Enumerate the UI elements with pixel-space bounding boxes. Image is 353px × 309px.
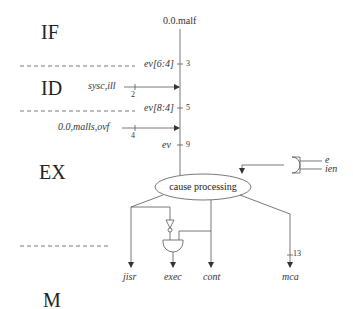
output-exec: exec xyxy=(164,272,182,282)
tick-5: 5 xyxy=(186,104,190,112)
output-cont: cont xyxy=(203,272,220,282)
stage-label-ex: EX xyxy=(39,162,66,182)
output-jisr: jisr xyxy=(123,272,136,282)
gate-input-ien: ien xyxy=(325,164,337,174)
tick-4: 4 xyxy=(131,132,135,140)
tick-13: 13 xyxy=(293,250,301,258)
tick-3: 3 xyxy=(186,60,190,68)
and-gate-exec xyxy=(163,240,183,252)
ev84-label: ev[8:4] xyxy=(144,103,174,113)
ev64-label: ev[6:4] xyxy=(144,59,174,69)
cause-processing-label: cause processing xyxy=(155,181,251,192)
sysc-ill-label: sysc,ill xyxy=(88,81,116,91)
tick-2: 2 xyxy=(131,91,135,99)
and-gate-e-ien xyxy=(292,157,300,173)
malls-ovf-label: 0.0,malls,ovf xyxy=(58,122,109,132)
ev-label: ev xyxy=(162,140,171,150)
stage-label-if: IF xyxy=(41,22,59,42)
inverter xyxy=(166,220,174,228)
tick-9: 9 xyxy=(186,141,190,149)
stage-label-m: M xyxy=(43,290,61,309)
diagram-canvas xyxy=(0,0,353,309)
top-signal-label: 0.0.malf xyxy=(163,16,196,26)
output-mca: mca xyxy=(282,272,299,282)
stage-label-id: ID xyxy=(41,78,62,98)
